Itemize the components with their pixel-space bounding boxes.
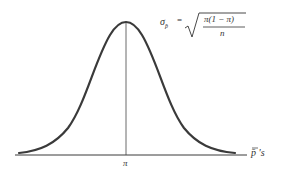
diagram-canvas <box>0 0 284 178</box>
sigma-subscript: p̄ <box>165 23 168 29</box>
formula-equals: = <box>177 15 182 25</box>
center-label: π <box>123 158 128 168</box>
normal-curve <box>19 22 235 153</box>
formula-lhs: σp̄ <box>160 16 168 29</box>
formula-denominator: n <box>220 28 225 38</box>
formula-numerator: π(1 − π) <box>204 14 234 24</box>
axis-label: p̄ 's <box>251 147 265 158</box>
